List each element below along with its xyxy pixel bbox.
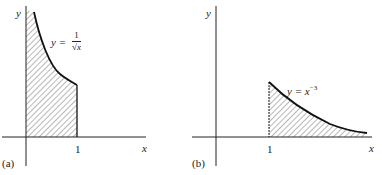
- equation-exponent-b: −3: [310, 84, 317, 92]
- figure-canvas: [0, 0, 382, 175]
- equation-base-b: y = x: [287, 85, 310, 97]
- equation-denominator-a: √x: [72, 42, 81, 52]
- x-axis-label-b: x: [369, 143, 374, 154]
- panel-b: [192, 6, 372, 166]
- panel-label-a: (a): [2, 158, 14, 169]
- tick-label-1-b: 1: [267, 144, 273, 155]
- x-axis-label-a: x: [142, 143, 147, 154]
- shaded-region-b: [269, 82, 367, 137]
- equation-numerator-a: 1: [72, 31, 81, 42]
- shaded-region-a: [26, 10, 77, 137]
- panel-label-b: (b): [192, 158, 205, 169]
- equation-lhs-a: y =: [51, 37, 66, 48]
- y-axis-label-a: y: [16, 8, 21, 19]
- equation-fraction-a: 1 √x: [72, 31, 81, 52]
- y-axis-label-b: y: [206, 8, 211, 19]
- tick-label-1-a: 1: [75, 144, 81, 155]
- equation-b: y = x−3: [287, 85, 317, 97]
